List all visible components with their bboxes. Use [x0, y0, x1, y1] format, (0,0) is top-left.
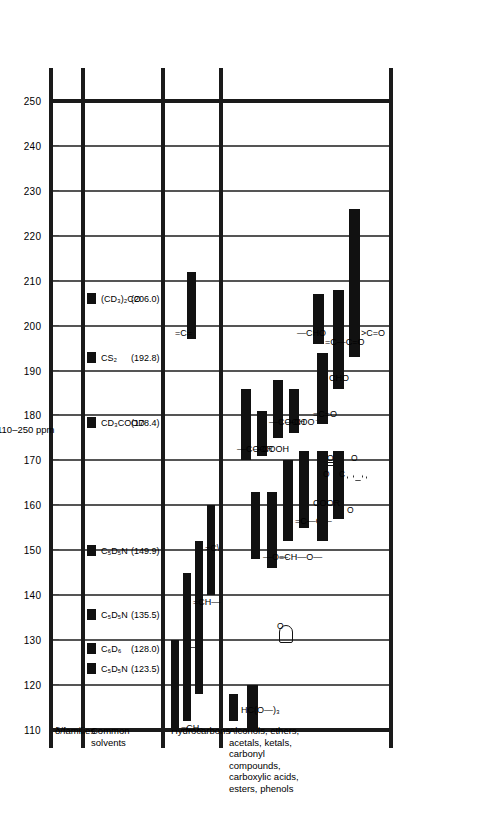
axis-tick-label-200: 200	[24, 320, 42, 331]
column-header-families: δ/families	[55, 725, 95, 737]
phenol-outer-hex	[347, 467, 367, 487]
axis-tick-130	[53, 639, 59, 640]
annotation-cco: =C=O	[313, 409, 337, 419]
annotation-coo_minus: —COO⁻	[285, 418, 320, 428]
solvent-shift-0: (123.5)	[131, 664, 160, 674]
rule-solvents-hydrocarbons	[161, 68, 165, 748]
annotation-phenol_o: O	[347, 505, 354, 515]
axis-tick-label-150: 150	[24, 545, 42, 556]
axis-tick-label-160: 160	[24, 500, 42, 511]
solvent-marker-1	[87, 643, 96, 654]
annotation-hco3: HC(O—)₃	[241, 705, 280, 715]
bar-ox-ketone	[349, 209, 360, 357]
annotation-carbonate_o_l: O	[351, 453, 358, 463]
annotation-chdash: =CH—	[193, 597, 220, 607]
phenol-inner-hex	[353, 471, 363, 481]
annotation-cho_a: CHO	[329, 373, 349, 383]
rule-families-solvents	[81, 68, 85, 748]
column-header-solvents: Common solvents	[91, 725, 130, 748]
axis-tick-label-120: 120	[24, 680, 42, 691]
solvent-marker-6	[87, 293, 96, 304]
bar-ox-orthoester	[229, 694, 238, 721]
column-header-oxygenated: Alcohols, ethers, acetals, ketals, carbo…	[229, 725, 299, 794]
solvent-label-5: CS₂	[101, 353, 117, 363]
nmr-shift-chart: 1101201301401501601701801902002102202302…	[43, 68, 443, 748]
annotation-ch2: =CH₂	[181, 723, 203, 733]
annotation-ceq: =C=	[175, 328, 192, 338]
annotation-coor_b: COOR	[313, 498, 340, 508]
bar-hc-ch	[195, 541, 203, 694]
axis-tick-label-210: 210	[24, 275, 42, 286]
rule-hydrocarbons-oxygenated	[219, 68, 224, 748]
axis-tick-label-140: 140	[24, 590, 42, 601]
axis-tick-label-230: 230	[24, 185, 42, 196]
annotation-ch_o: =CH—O—	[279, 552, 322, 562]
benzene-outer-hex	[183, 644, 201, 662]
chart-bottom-rule	[389, 68, 394, 748]
bar-ox-ether	[251, 492, 260, 559]
annotation-carbonate_c: C	[339, 469, 345, 479]
solvent-marker-5	[87, 352, 96, 363]
axis-tick-180	[53, 415, 59, 416]
axis-tick-label-190: 190	[24, 365, 42, 376]
solvent-shift-2: (135.5)	[131, 610, 160, 620]
annotation-cho_b: —CHO	[297, 328, 326, 338]
annotation-ketone: >C=O	[361, 328, 385, 338]
axis-tick-120	[53, 684, 59, 685]
axis-tick-label-240: 240	[24, 140, 42, 151]
axis-title: 110–250 ppm	[0, 425, 54, 436]
solvent-marker-3	[87, 545, 96, 556]
solvent-label-1: C₆D₆	[101, 644, 121, 654]
bar-hc-ch2	[171, 640, 179, 730]
carbonate-double-bond	[327, 465, 337, 466]
bar-ox-cooh-2	[273, 380, 283, 438]
solvent-label-0: C₅D₅N	[101, 664, 128, 674]
axis-tick-150	[53, 549, 59, 550]
axis-tick-label-110: 110	[24, 725, 41, 736]
annotation-cooh_a: —COOH	[253, 444, 289, 454]
chart-plot-area: 1101201301401501601701801902002102202302…	[43, 68, 443, 748]
solvent-marker-0	[87, 663, 96, 674]
axis-tick-200	[53, 325, 59, 326]
solvent-shift-5: (192.8)	[131, 353, 160, 363]
benzene-inner-hex	[188, 647, 198, 657]
axis-tick-190	[53, 370, 59, 371]
axis-tick-170	[53, 459, 59, 460]
phenol-ring-icon	[347, 469, 365, 487]
bar-ox-enone	[333, 290, 344, 362]
chart-top-rule	[49, 68, 54, 748]
solvent-shift-3: (149.9)	[131, 546, 160, 556]
annotation-cfork: =C\	[205, 543, 219, 553]
axis-tick-220	[53, 235, 59, 236]
axis-tick-140	[53, 594, 59, 595]
axis-tick-label-180: 180	[24, 410, 42, 421]
annotation-ether_o: O	[277, 621, 284, 631]
solvent-marker-4	[87, 417, 96, 428]
solvent-marker-2	[87, 609, 96, 620]
bar-ox-c-o	[283, 460, 293, 541]
axis-tick-label-250: 250	[24, 96, 42, 107]
axis-tick-240	[53, 145, 59, 146]
solvent-label-3: C₅D₅N	[101, 546, 128, 556]
axis-tick-label-130: 130	[24, 635, 42, 646]
solvent-label-2: C₅D₅N	[101, 610, 128, 620]
axis-tick-230	[53, 190, 59, 191]
axis-tick-label-220: 220	[24, 230, 42, 241]
solvent-shift-1: (128.0)	[131, 644, 160, 654]
annotation-carbonate_o_top: O	[323, 469, 330, 479]
axis-tick-label-170: 170	[24, 455, 42, 466]
solvent-shift-6: (206.0)	[131, 294, 160, 304]
annotation-enone: =C—C=O	[325, 337, 365, 347]
solvent-shift-4: (178.4)	[131, 418, 160, 428]
axis-tick-210	[53, 280, 59, 281]
benzene-ring-icon	[183, 646, 199, 662]
carbonate-double-bond-2	[327, 462, 337, 463]
axis-tick-160	[53, 504, 59, 505]
chart-frame: 1101201301401501601701801902002102202302…	[43, 68, 443, 748]
